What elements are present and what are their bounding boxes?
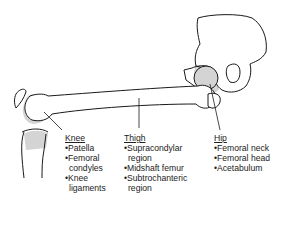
knee-item-ligaments-cont: ligaments xyxy=(65,183,106,193)
knee-leader-line xyxy=(44,112,62,130)
thigh-item-subtrochanteric: •Subtrochanteric xyxy=(124,173,187,183)
thigh-item-subtrochanteric-cont: region xyxy=(124,183,187,193)
thigh-item-supracondylar-cont: region xyxy=(124,153,187,163)
hip-item-femoral-head: •Femoral head xyxy=(214,153,270,163)
hip-item-acetabulum: •Acetabulum xyxy=(214,163,270,173)
hip-item-femoral-neck: •Femoral neck xyxy=(214,143,270,153)
femur xyxy=(25,85,216,121)
hip-heading: Hip xyxy=(214,133,270,143)
thigh-item-supracondylar: •Supracondylar xyxy=(124,143,187,153)
hip-labels: Hip •Femoral neck •Femoral head •Acetabu… xyxy=(214,133,270,173)
knee-item-patella: •Patella xyxy=(65,143,106,153)
knee-item-femoral-condyles: •Femoral xyxy=(65,153,106,163)
obturator-foramen xyxy=(226,64,240,83)
thigh-item-midshaft: •Midshaft femur xyxy=(124,163,187,173)
knee-item-femoral-condyles-cont: condyles xyxy=(65,163,106,173)
greater-trochanter xyxy=(208,93,220,108)
thigh-labels: Thigh •Supracondylar region •Midshaft fe… xyxy=(124,133,187,193)
knee-labels: Knee •Patella •Femoral condyles •Knee li… xyxy=(65,133,106,193)
thigh-heading: Thigh xyxy=(124,133,187,143)
knee-heading: Knee xyxy=(65,133,106,143)
knee-item-ligaments: •Knee xyxy=(65,173,106,183)
